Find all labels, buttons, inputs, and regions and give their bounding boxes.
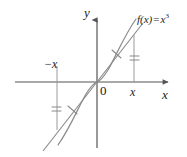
cubic-function-figure: y x 0 x −x f(x)=x3 bbox=[0, 0, 187, 157]
origin-label: 0 bbox=[100, 84, 107, 97]
positive-x-point-label: x bbox=[130, 86, 135, 98]
function-equation-label: f(x)=x3 bbox=[137, 13, 169, 25]
secant-line bbox=[43, 23, 143, 151]
x-axis-label: x bbox=[162, 88, 168, 101]
equals-sign: = bbox=[152, 13, 160, 25]
y-axis-label: y bbox=[84, 6, 90, 19]
function-argument: (x) bbox=[140, 13, 152, 25]
function-exponent: 3 bbox=[165, 12, 169, 20]
negative-x-point-label: −x bbox=[44, 58, 57, 70]
